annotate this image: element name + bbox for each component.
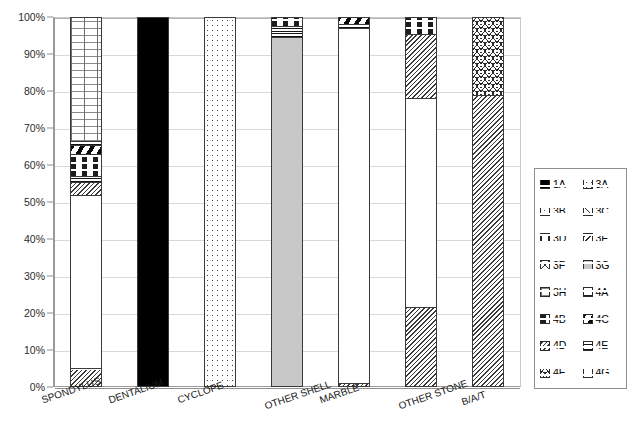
bar-segment[interactable] bbox=[71, 196, 101, 370]
bar-segment[interactable] bbox=[473, 96, 503, 387]
bar-segment[interactable] bbox=[473, 18, 503, 96]
stacked-bar[interactable] bbox=[271, 17, 303, 387]
bar-segment[interactable] bbox=[71, 146, 101, 155]
x-axis-labels: SPONDYLUSDENTALIUMCYCLOPEOTHER SHELLMARB… bbox=[0, 388, 635, 441]
bar-segment[interactable] bbox=[272, 27, 302, 38]
y-axis-tick-label: 100% bbox=[18, 11, 45, 23]
stacked-bar[interactable] bbox=[204, 17, 236, 387]
bar-segment[interactable] bbox=[205, 18, 235, 387]
bar-segment[interactable] bbox=[71, 142, 101, 146]
y-axis-tick-label: 50% bbox=[24, 196, 45, 208]
stacked-bar[interactable] bbox=[137, 17, 169, 387]
y-axis-tick-label: 10% bbox=[24, 344, 45, 356]
x-axis-tick-label: B/A/T bbox=[460, 389, 487, 408]
legend: 1A3A3B3C3D3E3F3G3H4A4B4C4D4E4F4G bbox=[534, 168, 627, 389]
bar-segment[interactable] bbox=[406, 18, 436, 35]
bar-segment[interactable] bbox=[339, 29, 369, 384]
bar-segment[interactable] bbox=[71, 18, 101, 142]
bar-segment[interactable] bbox=[406, 99, 436, 308]
y-axis-tick-label: 90% bbox=[24, 48, 45, 60]
bar-segment[interactable] bbox=[406, 308, 436, 387]
bar-segment[interactable] bbox=[71, 183, 101, 196]
bar-segment[interactable] bbox=[406, 35, 436, 100]
bar-segment[interactable] bbox=[138, 18, 168, 387]
stacked-bar[interactable] bbox=[472, 17, 504, 387]
bar-segment[interactable] bbox=[339, 18, 369, 25]
y-axis-tick-label: 40% bbox=[24, 233, 45, 245]
stacked-bar[interactable] bbox=[70, 17, 102, 387]
y-axis-tick-label: 20% bbox=[24, 307, 45, 319]
bar-series-group bbox=[53, 17, 521, 387]
chart-root: 0%10%20%30%40%50%60%70%80%90%100% SPONDY… bbox=[0, 0, 635, 441]
y-axis-tick-label: 70% bbox=[24, 122, 45, 134]
legend-item[interactable]: 4B bbox=[538, 305, 581, 332]
y-axis-tick-label: 80% bbox=[24, 85, 45, 97]
stacked-bar[interactable] bbox=[338, 17, 370, 387]
y-axis-tick-label: 60% bbox=[24, 159, 45, 171]
stacked-bar[interactable] bbox=[405, 17, 437, 387]
bar-segment[interactable] bbox=[71, 177, 101, 183]
bar-segment[interactable] bbox=[272, 18, 302, 27]
y-axis-tick-label: 30% bbox=[24, 270, 45, 282]
bar-segment[interactable] bbox=[71, 155, 101, 177]
y-axis: 0%10%20%30%40%50%60%70%80%90%100% bbox=[0, 0, 53, 388]
bar-segment[interactable] bbox=[272, 38, 302, 387]
legend-grid: 1A3A3B3C3D3E3F3G3H4A4B4C4D4E4F4G bbox=[535, 169, 626, 388]
legend-swatch-icon bbox=[540, 314, 550, 324]
bar-segment[interactable] bbox=[339, 25, 369, 29]
